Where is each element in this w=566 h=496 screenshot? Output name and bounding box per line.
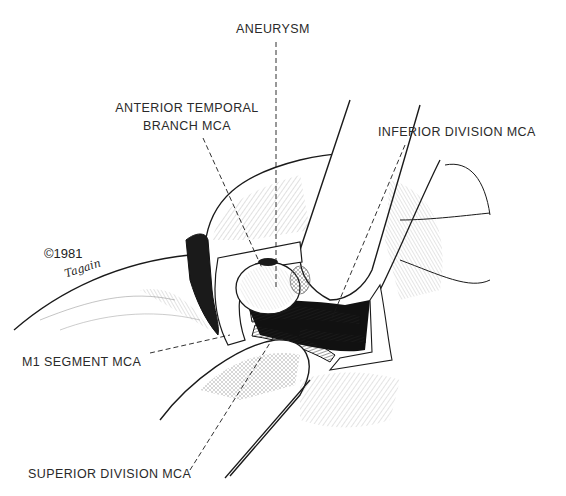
label-anterior-temporal-line1: ANTERIOR TEMPORAL	[104, 100, 270, 116]
copyright-notice: ©1981	[44, 246, 83, 261]
frontal-lobe	[14, 255, 210, 330]
label-aneurysm: ANEURYSM	[236, 21, 310, 37]
label-inferior-division: INFERIOR DIVISION MCA	[378, 124, 536, 140]
label-anterior-temporal-line2: BRANCH MCA	[104, 118, 270, 134]
label-m1-segment: M1 SEGMENT MCA	[22, 354, 141, 370]
lower-tissue	[300, 373, 400, 428]
mca-aneurysm-illustration	[0, 0, 566, 496]
leader-m1-segment	[150, 335, 230, 353]
lower-retractor	[160, 340, 310, 478]
label-superior-division: SUPERIOR DIVISION MCA	[28, 466, 191, 482]
